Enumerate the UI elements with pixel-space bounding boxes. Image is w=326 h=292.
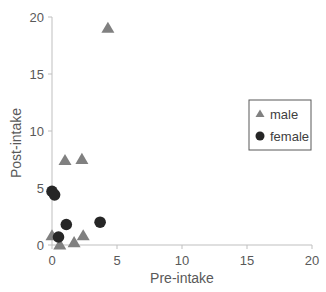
y-tick-label: 5 xyxy=(37,181,44,196)
legend: malefemale xyxy=(249,100,311,150)
y-tick-label: 15 xyxy=(30,67,44,82)
x-tick-label: 10 xyxy=(175,253,189,268)
x-tick-label: 0 xyxy=(48,253,55,268)
circle-marker xyxy=(49,189,61,201)
x-tick-label: 20 xyxy=(305,253,319,268)
x-tick-label: 5 xyxy=(113,253,120,268)
legend-label-male: male xyxy=(270,107,298,122)
triangle-marker xyxy=(75,153,88,164)
x-axis-title: Pre-intake xyxy=(150,270,214,286)
circle-marker xyxy=(256,132,265,141)
triangle-marker xyxy=(101,22,114,33)
triangle-marker xyxy=(59,154,72,165)
y-axis-title: Post-intake xyxy=(8,108,24,178)
triangle-marker xyxy=(77,229,90,240)
scatter-chart: 0510152005101520Pre-intakePost-intake ma… xyxy=(0,0,326,292)
y-tick-label: 10 xyxy=(30,124,44,139)
legend-label-female: female xyxy=(270,129,309,144)
y-tick-label: 0 xyxy=(37,238,44,253)
circle-marker xyxy=(61,219,73,231)
circle-marker xyxy=(94,216,106,228)
y-tick-label: 20 xyxy=(30,10,44,25)
circle-marker xyxy=(53,231,65,243)
data-points xyxy=(46,22,115,250)
x-tick-label: 15 xyxy=(240,253,254,268)
